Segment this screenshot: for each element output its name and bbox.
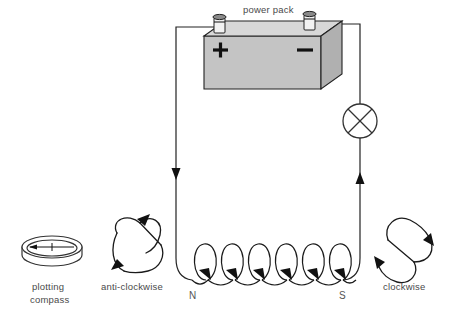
anti-clockwise-upper-arc [115,218,161,245]
right-wire-lower [344,138,360,280]
power-pack-negative-terminal [303,11,316,30]
current-arrow-left-wire [172,168,181,180]
anti-clockwise-arrowhead-top [137,214,150,226]
solenoid-coil: N S [189,244,356,301]
compass-label-line1: plotting [32,281,64,292]
current-arrow-right-wire [356,172,365,184]
anti-clockwise-lower-return [124,245,163,273]
coil-swag [208,280,233,285]
clockwise-lower-arc [379,262,416,282]
anti-clockwise-indicator: anti-clockwise [101,214,163,292]
power-pack: power pack [204,4,342,89]
coil-north-pole-label: N [189,290,196,301]
power-pack-label: power pack [243,4,294,15]
anti-clockwise-arrowhead-bottom [111,259,124,270]
coil-swag [192,280,208,284]
lamp-symbol [343,104,377,138]
anti-clockwise-label: anti-clockwise [101,281,163,292]
coil-swag [289,280,314,285]
clockwise-upper-return [388,240,414,262]
coil-swag [262,280,287,285]
physics-diagram: power pack [0,0,451,320]
power-pack-positive-terminal [213,14,226,33]
compass-label-line2: compass [30,294,69,305]
coil-swag [235,280,260,285]
diagram-canvas: power pack [0,0,451,320]
plotting-compass: plotting compass [22,236,82,305]
clockwise-indicator: clockwise [374,218,434,292]
clockwise-upper-arc [387,218,429,240]
coil-swag [316,280,341,285]
coil-south-pole-label: S [339,290,346,301]
clockwise-label: clockwise [383,281,425,292]
